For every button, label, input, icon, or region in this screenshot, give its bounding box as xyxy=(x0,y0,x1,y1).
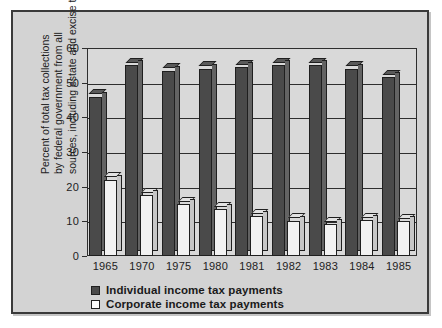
legend-label-individual: Individual income tax payments xyxy=(106,284,283,296)
y-axis-tick xyxy=(82,187,87,188)
x-axis-label: 1981 xyxy=(239,260,264,272)
hollow-square-icon xyxy=(91,300,100,309)
x-axis-label: 1983 xyxy=(313,260,338,272)
chart-legend: Individual income tax payments Corporate… xyxy=(91,284,284,310)
y-axis-tick-label: 20 xyxy=(66,181,79,193)
y-axis-tick xyxy=(82,83,87,84)
x-axis-label: 1980 xyxy=(203,260,228,272)
y-axis-tick-label: 10 xyxy=(66,215,79,227)
x-axis-label: 1965 xyxy=(93,260,118,272)
gridline xyxy=(88,118,416,119)
legend-item-individual: Individual income tax payments xyxy=(91,284,284,296)
y-axis-title-line-2: by federal government from all xyxy=(52,32,66,174)
y-axis-tick xyxy=(82,117,87,118)
y-axis-tick xyxy=(82,221,87,222)
gridline xyxy=(88,188,416,189)
y-axis-title-line-1: Percent of total tax collections xyxy=(39,35,53,175)
x-axis-label: 1984 xyxy=(349,260,374,272)
y-axis-tick-label: 40 xyxy=(66,111,79,123)
chart-figure: Percent of total tax collections by fede… xyxy=(11,10,429,314)
y-axis-tick xyxy=(82,152,87,153)
y-axis-tick-label: 60 xyxy=(66,42,79,54)
y-axis-tick-label: 0 xyxy=(73,250,79,262)
x-axis-label: 1975 xyxy=(166,260,191,272)
legend-item-corporate: Corporate income tax payments xyxy=(91,298,284,310)
x-axis-label: 1985 xyxy=(386,260,411,272)
legend-label-corporate: Corporate income tax payments xyxy=(106,298,284,310)
x-axis-label: 1970 xyxy=(129,260,154,272)
y-axis-tick-label: 50 xyxy=(66,77,79,89)
y-axis-tick-label: 30 xyxy=(66,146,79,158)
gridline xyxy=(88,222,416,223)
plot-area xyxy=(87,48,417,256)
gridline xyxy=(88,153,416,154)
y-axis-tick xyxy=(82,256,87,257)
gridline xyxy=(88,84,416,85)
x-axis-label: 1982 xyxy=(276,260,301,272)
y-axis-tick xyxy=(82,48,87,49)
x-axis: 196519701975198019811982198319841985 xyxy=(87,260,417,276)
filled-square-icon xyxy=(91,286,100,295)
